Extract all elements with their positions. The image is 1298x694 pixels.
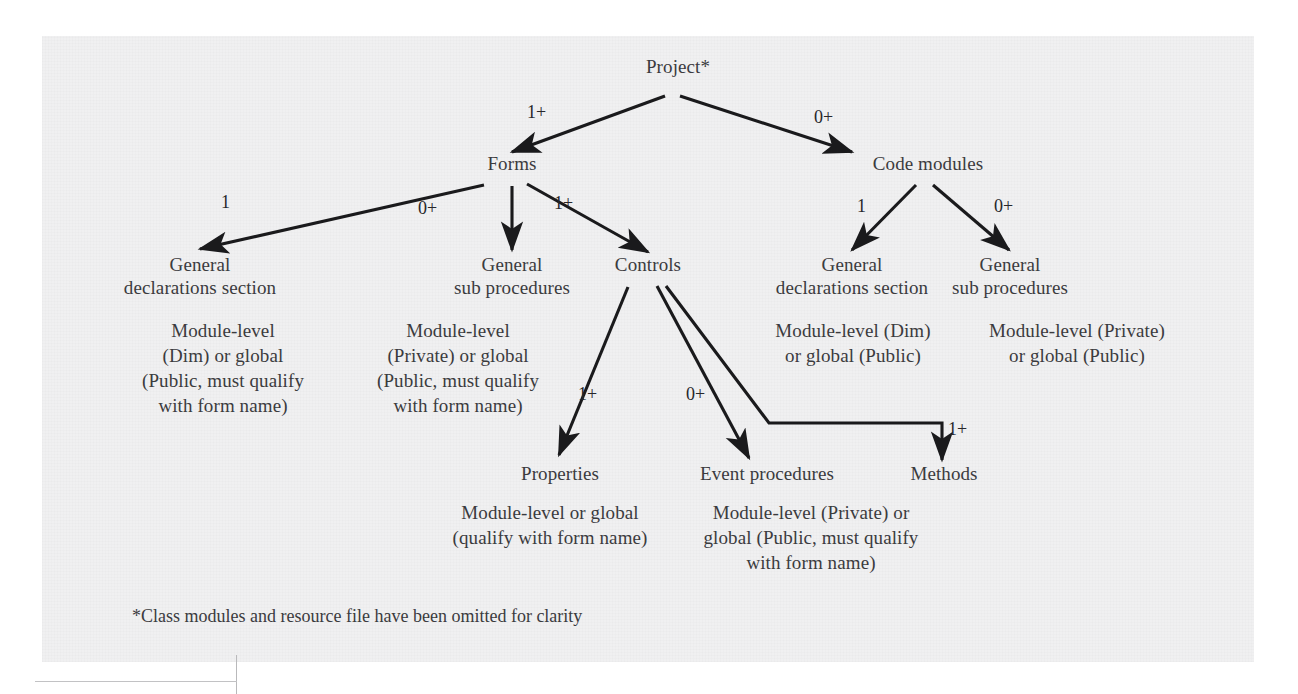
edge-label-project-forms: 1+	[527, 103, 546, 121]
node-code-modules: Code modules	[838, 152, 1018, 175]
node-modules-general-declarations: General declarations section	[762, 253, 942, 299]
desc-modules-general-declarations: Module-level (Dim) or global (Public)	[740, 318, 966, 368]
edge-modules-declarations	[852, 185, 916, 250]
edge-forms-controls	[527, 184, 648, 252]
edge-forms-declarations	[200, 185, 484, 249]
node-event-procedures: Event procedures	[672, 462, 862, 485]
edge-label-controls-events: 0+	[686, 385, 705, 403]
edge-label-forms-sub: 0+	[418, 199, 437, 217]
edge-label-forms-controls: 1+	[554, 194, 573, 212]
node-forms: Forms	[452, 152, 572, 175]
scan-artifact-horizontal-rule	[35, 681, 237, 682]
desc-modules-general-sub: Module-level (Private) or global (Public…	[958, 318, 1196, 368]
desc-properties: Module-level or global (qualify with for…	[420, 500, 680, 550]
edge-label-modules-declarations: 1	[857, 197, 866, 215]
desc-event-procedures: Module-level (Private) or global (Public…	[666, 500, 956, 575]
footnote: *Class modules and resource file have be…	[132, 605, 582, 627]
edge-label-forms-declarations: 1	[221, 193, 230, 211]
edge-label-controls-properties: 1+	[578, 385, 597, 403]
edge-label-modules-sub: 0+	[994, 197, 1013, 215]
node-methods: Methods	[880, 462, 1008, 485]
node-properties: Properties	[490, 462, 630, 485]
edge-label-controls-methods: 1+	[948, 420, 967, 438]
node-project: Project*	[608, 55, 748, 78]
edge-modules-sub	[933, 185, 1009, 250]
node-modules-general-sub: General sub procedures	[925, 253, 1095, 299]
desc-forms-general-declarations: Module-level (Dim) or global (Public, mu…	[110, 318, 336, 418]
edge-label-project-code-modules: 0+	[814, 108, 833, 126]
node-controls: Controls	[588, 253, 708, 276]
node-forms-general-sub: General sub procedures	[422, 253, 602, 299]
node-forms-general-declarations: General declarations section	[110, 253, 290, 299]
desc-forms-general-sub: Module-level (Private) or global (Public…	[340, 318, 576, 418]
scan-artifact-vertical-rule	[236, 655, 237, 694]
edge-controls-methods	[666, 286, 942, 460]
edge-controls-events	[657, 286, 749, 458]
diagram-page: Project* Forms Code modules General decl…	[0, 0, 1298, 694]
